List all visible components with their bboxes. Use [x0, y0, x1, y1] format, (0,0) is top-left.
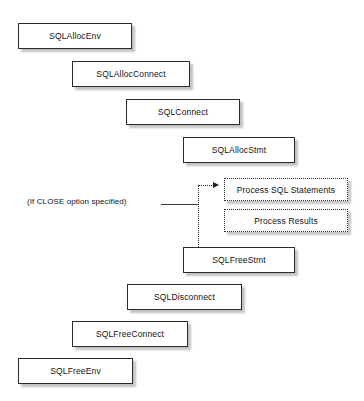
- node-label: Process SQL Statements: [237, 185, 335, 195]
- node-sqlallocstmt: SQLAllocStmt: [183, 137, 295, 163]
- node-sqlfreeenv: SQLFreeEnv: [18, 358, 133, 384]
- node-process-sql-statements: Process SQL Statements: [224, 178, 348, 201]
- node-label: SQLAllocEnv: [49, 31, 101, 41]
- annotation-close-option: (If CLOSE option specified): [27, 197, 127, 206]
- node-sqldisconnect: SQLDisconnect: [127, 284, 242, 310]
- odbc-call-sequence-diagram: SQLAllocEnv SQLAllocConnect SQLConnect S…: [0, 0, 364, 401]
- node-process-results: Process Results: [224, 209, 348, 232]
- node-label: SQLFreeStmt: [212, 255, 266, 265]
- node-sqlfreestmt: SQLFreeStmt: [183, 247, 295, 273]
- node-sqlallocenv: SQLAllocEnv: [18, 23, 132, 49]
- node-sqlfreeconnect: SQLFreeConnect: [72, 321, 188, 347]
- node-label: SQLFreeConnect: [96, 329, 164, 339]
- node-sqlallocconnect: SQLAllocConnect: [72, 61, 190, 87]
- node-label: Process Results: [254, 216, 318, 226]
- node-label: SQLAllocStmt: [212, 145, 267, 155]
- annotation-label: (If CLOSE option specified): [27, 197, 127, 206]
- node-label: SQLFreeEnv: [50, 366, 101, 376]
- node-sqlconnect: SQLConnect: [126, 99, 240, 125]
- connector-free-stmt-riser: [198, 185, 199, 247]
- node-label: SQLDisconnect: [154, 292, 215, 302]
- node-label: SQLConnect: [158, 107, 208, 117]
- arrowhead-to-process-sql-statements: [213, 182, 219, 188]
- node-label: SQLAllocConnect: [96, 69, 165, 79]
- connector-close-option-line: [161, 204, 198, 205]
